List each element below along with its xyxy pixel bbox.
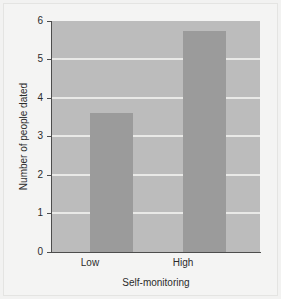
chart-figure: Number of people dated 6 5 4 3 2 1 0 Low…: [0, 0, 281, 299]
gridline-2: [52, 174, 260, 176]
bar-low: [90, 113, 133, 252]
x-axis-line: [51, 252, 261, 253]
plot-area: [52, 21, 260, 252]
y-tick-label-3: 3: [21, 131, 43, 141]
gridline-4: [52, 97, 260, 99]
y-tick-label-6: 6: [21, 16, 43, 26]
gridline-5: [52, 58, 260, 60]
x-axis-title: Self-monitoring: [52, 277, 260, 288]
gridline-3: [52, 135, 260, 137]
y-tick-label-5: 5: [21, 54, 43, 64]
gridline-1: [52, 212, 260, 214]
y-axis-line: [51, 21, 52, 253]
y-tick-label-0: 0: [21, 247, 43, 257]
y-tick-label-2: 2: [21, 170, 43, 180]
bar-high: [183, 31, 226, 252]
x-tick-label-high: High: [148, 257, 218, 268]
y-tick-label-1: 1: [21, 208, 43, 218]
y-tick-label-4: 4: [21, 93, 43, 103]
x-tick-label-low: Low: [55, 257, 125, 268]
